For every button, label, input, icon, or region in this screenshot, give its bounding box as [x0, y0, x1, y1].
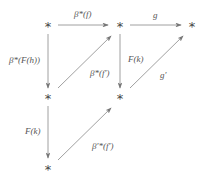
label-g-prime: g′	[160, 71, 166, 80]
node-middle-center: *	[117, 92, 124, 105]
node-top-right: *	[189, 20, 196, 33]
label-beta-F-h: β*(F(h))	[9, 56, 40, 65]
label-beta-prime-f-prime: β′*(f′)	[92, 142, 113, 151]
label-beta-f-prime: β*(f′)	[90, 69, 109, 78]
label-F-k-left: F(k)	[25, 127, 41, 136]
label-g: g	[153, 11, 158, 20]
label-F-k-right: F(k)	[128, 55, 144, 64]
node-top-middle: *	[117, 20, 124, 33]
arrow-n6-n5	[58, 108, 111, 160]
node-bottom-left: *	[45, 163, 52, 176]
diagram-arrows	[0, 0, 207, 180]
label-beta-f: β*(f)	[74, 10, 91, 19]
arrow-n4-n2	[58, 36, 111, 88]
node-top-left: *	[45, 20, 52, 33]
node-middle-left: *	[45, 92, 52, 105]
